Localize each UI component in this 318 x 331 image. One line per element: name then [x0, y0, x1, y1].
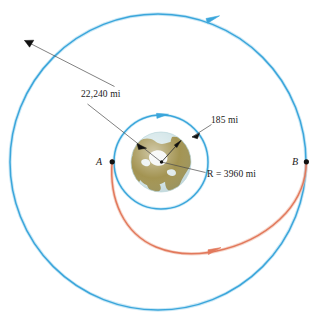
point-a-marker[interactable]: [110, 159, 115, 164]
earth-center-marker: [160, 160, 163, 163]
outer-altitude-leader-upper: [25, 41, 115, 87]
outer-altitude-arrow-outer: [25, 40, 34, 47]
outer-altitude-leader-lower: [88, 104, 161, 161]
diagram-canvas: A B 22,240 mi 185 mi R = 3960 mi: [0, 0, 318, 331]
point-b-label: B: [292, 156, 298, 167]
orbit-point-markers: A B: [95, 156, 309, 167]
geosynchronous-orbit-direction-arrow: [206, 16, 220, 23]
point-b-marker[interactable]: [304, 159, 309, 164]
earth-radius-label: R = 3960 mi: [207, 169, 256, 179]
point-a-label: A: [95, 156, 103, 167]
outer-orbit-altitude-label: 22,240 mi: [81, 89, 121, 99]
inner-orbit-altitude-label: 185 mi: [211, 115, 239, 125]
orbit-diagram-figure: A B 22,240 mi 185 mi R = 3960 mi: [0, 0, 318, 331]
